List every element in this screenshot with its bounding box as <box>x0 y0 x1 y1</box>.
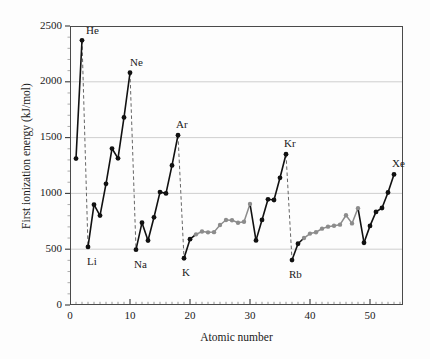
x-tick-label-50: 50 <box>355 309 385 321</box>
annotation-li: Li <box>87 255 97 267</box>
x-tick-label-0: 0 <box>55 309 85 321</box>
annotation-ar: Ar <box>176 118 188 130</box>
y-tick-label-0: 0 <box>22 298 62 310</box>
x-axis-title: Atomic number <box>70 331 403 343</box>
x-tick-label-30: 30 <box>235 309 265 321</box>
annotation-k: K <box>182 266 190 278</box>
x-tick-label-20: 20 <box>175 309 205 321</box>
x-tick-label-10: 10 <box>115 309 145 321</box>
annotation-kr: Kr <box>284 137 296 149</box>
annotation-rb: Rb <box>289 268 302 280</box>
annotation-ne: Ne <box>130 56 143 68</box>
y-tick-label-2500: 2500 <box>22 19 62 31</box>
annotation-na: Na <box>134 258 147 270</box>
y-axis-title: First ionization energy (kJ/mol) <box>20 56 32 256</box>
ionization-energy-chart: 05001000150020002500 01020304050 HeLiNeN… <box>0 0 430 359</box>
plot-area-frame <box>70 26 403 305</box>
x-tick-label-40: 40 <box>295 309 325 321</box>
annotation-he: He <box>86 24 99 36</box>
annotation-xe: Xe <box>392 157 405 169</box>
